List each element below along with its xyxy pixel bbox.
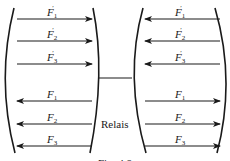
left-group-outer-bracket (5, 8, 15, 153)
force-label: F1′ (174, 4, 186, 20)
force-label: F1 (46, 88, 58, 102)
relay-diagram: Relais F1′F2′F3′F1F2F3 F1′F2′F3′F1F2F3 F… (0, 0, 230, 161)
relay-label: Relais (101, 118, 129, 130)
force-label: F3′ (174, 49, 186, 65)
force-label: F3 (174, 133, 186, 147)
left-group-inner-bracket (90, 8, 99, 153)
force-label: F2 (174, 111, 186, 125)
right-arrows: F1′F2′F3′F1F2F3 (145, 4, 220, 147)
left-arrows: F1′F2′F3′F1F2F3 (17, 4, 92, 147)
force-label: F3′ (46, 49, 58, 65)
force-label: F2′ (46, 26, 58, 42)
force-label: F1 (174, 88, 186, 102)
right-group-outer-bracket (215, 8, 226, 153)
figure-caption: Fig. 4.8 (98, 157, 132, 161)
force-label: F2 (46, 111, 58, 125)
force-label: F3 (46, 133, 58, 147)
force-label: F1′ (46, 4, 58, 20)
right-group-inner-bracket (134, 8, 146, 153)
force-label: F2′ (174, 26, 186, 42)
